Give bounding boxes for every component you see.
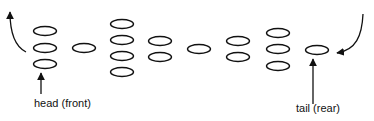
queue-element (111, 36, 134, 45)
group-2 (73, 44, 96, 53)
queue-element (111, 68, 134, 77)
head-label: head (front) (34, 97, 91, 109)
group-8-tail (306, 46, 329, 55)
enter-arrow-icon (337, 14, 363, 53)
queue-element (227, 53, 250, 62)
exit-arrow-icon (10, 12, 26, 52)
queue-element (306, 46, 329, 55)
group-5 (188, 45, 211, 54)
queue-element (267, 29, 290, 38)
queue-element (149, 37, 172, 46)
group-6 (227, 37, 250, 62)
queue-element (111, 20, 134, 29)
group-3 (111, 20, 134, 77)
queue-element (34, 27, 57, 36)
queue-elements (34, 20, 329, 77)
queue-element (227, 37, 250, 46)
group-7 (267, 29, 290, 71)
queue-element (73, 44, 96, 53)
queue-element (149, 53, 172, 62)
queue-element (34, 44, 57, 53)
queue-element (34, 60, 57, 69)
queue-element (267, 45, 290, 54)
queue-element (267, 62, 290, 71)
queue-element (188, 45, 211, 54)
group-4 (149, 37, 172, 62)
queue-element (111, 52, 134, 61)
tail-label: tail (rear) (296, 102, 340, 114)
group-1 (34, 27, 57, 69)
